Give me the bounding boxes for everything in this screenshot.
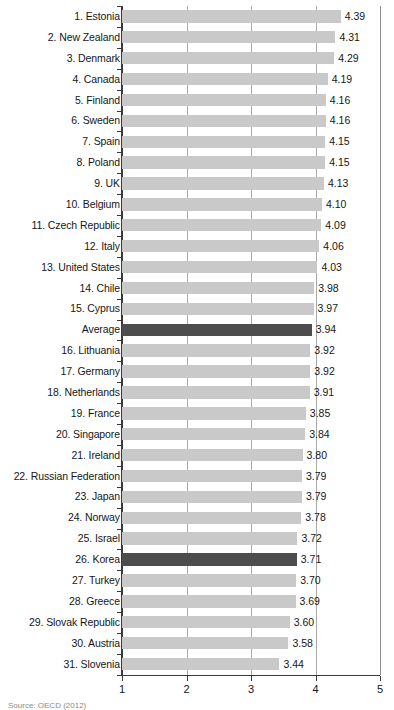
bar xyxy=(122,637,288,649)
y-axis-tick xyxy=(117,131,123,132)
y-axis-tick xyxy=(117,299,123,300)
bar-row: 15. Cyprus3.97 xyxy=(0,298,394,319)
y-axis-tick xyxy=(117,612,123,613)
y-axis-tick xyxy=(117,633,123,634)
y-axis-tick xyxy=(117,152,123,153)
y-axis-tick xyxy=(117,549,123,550)
bar-category-label: 29. Slovak Republic xyxy=(29,612,120,633)
bar-row: 7. Spain4.15 xyxy=(0,131,394,152)
bar-category-label: 12. Italy xyxy=(84,236,120,257)
x-axis-tick-label: 3 xyxy=(241,683,261,695)
bar-value-label: 3.69 xyxy=(296,591,320,612)
y-axis-tick xyxy=(117,340,123,341)
bar-row: 4. Canada4.19 xyxy=(0,69,394,90)
bar-row: 12. Italy4.06 xyxy=(0,236,394,257)
bar xyxy=(122,470,302,482)
bar-category-label: 7. Spain xyxy=(82,131,120,152)
bar-row: 31. Slovenia3.44 xyxy=(0,654,394,675)
bar-row: 22. Russian Federation3.79 xyxy=(0,466,394,487)
bar-value-label: 4.03 xyxy=(317,257,341,278)
bar-row: 8. Poland4.15 xyxy=(0,152,394,173)
bar-category-label: 11. Czech Republic xyxy=(32,215,120,236)
x-axis-tick xyxy=(380,676,381,681)
bar-value-label: 3.71 xyxy=(297,549,321,570)
bar xyxy=(122,240,319,252)
bar-category-label: 16. Lithuania xyxy=(61,340,120,361)
bar xyxy=(122,115,326,127)
bar-category-label: 21. Ireland xyxy=(71,445,120,466)
x-axis-tick xyxy=(251,676,252,681)
bar-category-label: 4. Canada xyxy=(72,69,120,90)
bar-row: 3. Denmark4.29 xyxy=(0,48,394,69)
bar-rows: 1. Estonia4.392. New Zealand4.313. Denma… xyxy=(0,6,394,675)
bar-row: 19. France3.85 xyxy=(0,403,394,424)
bar xyxy=(122,303,314,315)
bar-category-label: 27. Turkey xyxy=(72,570,120,591)
x-axis-tick-label: 1 xyxy=(112,683,132,695)
bar-category-label: 15. Cyprus xyxy=(70,298,120,319)
bar xyxy=(122,616,290,628)
bar-value-label: 4.16 xyxy=(326,110,350,131)
x-axis-tick-label: 5 xyxy=(370,683,390,695)
bar-value-label: 3.80 xyxy=(303,445,327,466)
bar xyxy=(122,491,302,503)
bar xyxy=(122,344,310,356)
bar-category-label: 22. Russian Federation xyxy=(14,466,120,487)
bar-value-label: 4.06 xyxy=(319,236,343,257)
bar-value-label: 4.10 xyxy=(322,194,346,215)
x-axis-tick-label: 4 xyxy=(306,683,326,695)
y-axis-tick xyxy=(117,173,123,174)
bar-category-label: 24. Norway xyxy=(68,507,120,528)
bar xyxy=(122,282,314,294)
y-axis-tick xyxy=(117,27,123,28)
bar-category-label: 23. Japan xyxy=(75,486,120,507)
bar-category-label: 3. Denmark xyxy=(67,48,120,69)
bar-category-label: 28. Greece xyxy=(69,591,120,612)
bar xyxy=(122,658,279,670)
bar-value-label: 4.31 xyxy=(335,27,359,48)
bar xyxy=(122,52,334,64)
bar-category-label: 26. Korea xyxy=(75,549,120,570)
y-axis-tick xyxy=(117,278,123,279)
x-axis-tick xyxy=(316,676,317,681)
bar-row: 27. Turkey3.70 xyxy=(0,570,394,591)
bar-row: 30. Austria3.58 xyxy=(0,633,394,654)
bar-row: 26. Korea3.71 xyxy=(0,549,394,570)
bar-row: 20. Singapore3.84 xyxy=(0,424,394,445)
bar-value-label: 4.19 xyxy=(328,69,352,90)
bar xyxy=(122,31,335,43)
bar-row: 24. Norway3.78 xyxy=(0,507,394,528)
bar-row: Average3.94 xyxy=(0,319,394,340)
y-axis-tick xyxy=(117,675,123,676)
bar-category-label: 14. Chile xyxy=(79,278,120,299)
y-axis-tick xyxy=(117,466,123,467)
bar-category-label: 17. Germany xyxy=(60,361,120,382)
bar-row: 2. New Zealand4.31 xyxy=(0,27,394,48)
bar-value-label: 4.15 xyxy=(325,131,349,152)
bar xyxy=(122,177,324,189)
bar-highlighted xyxy=(122,324,312,336)
bar-row: 9. UK4.13 xyxy=(0,173,394,194)
bar-value-label: 3.94 xyxy=(312,319,336,340)
bar-category-label: 13. United States xyxy=(41,257,120,278)
bar-highlighted xyxy=(122,553,297,565)
bar-category-label: 5. Finland xyxy=(75,90,120,111)
bar-row: 29. Slovak Republic3.60 xyxy=(0,612,394,633)
bar-row: 17. Germany3.92 xyxy=(0,361,394,382)
bar-value-label: 3.44 xyxy=(279,654,303,675)
bar-category-label: 19. France xyxy=(71,403,120,424)
x-axis-tick xyxy=(187,676,188,681)
bar-value-label: 3.58 xyxy=(288,633,312,654)
y-axis-tick xyxy=(117,215,123,216)
bar-value-label: 4.13 xyxy=(324,173,348,194)
bar-row: 28. Greece3.69 xyxy=(0,591,394,612)
y-axis-tick xyxy=(117,69,123,70)
bar-value-label: 3.84 xyxy=(305,424,329,445)
y-axis-tick xyxy=(117,424,123,425)
bar-value-label: 3.79 xyxy=(302,466,326,487)
bar-row: 23. Japan3.79 xyxy=(0,486,394,507)
bar-category-label: Average xyxy=(82,319,120,340)
y-axis-tick xyxy=(117,361,123,362)
y-axis-tick xyxy=(117,257,123,258)
